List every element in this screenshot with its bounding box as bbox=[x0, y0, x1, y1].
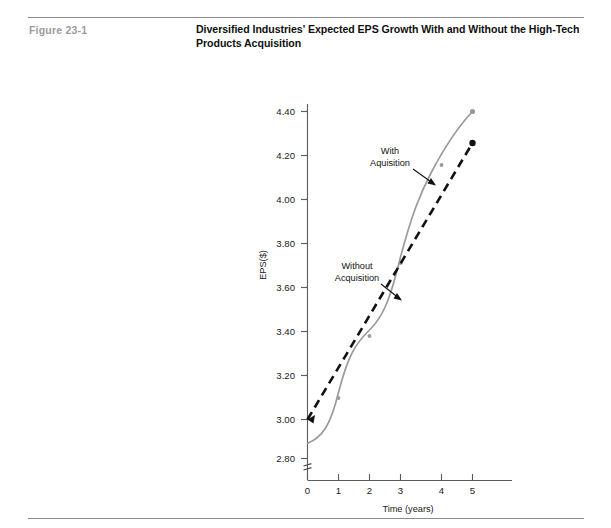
annotation-without-acquisition: Without Acquisition bbox=[335, 261, 402, 301]
bottom-divider bbox=[28, 518, 584, 519]
x-tick-marks bbox=[308, 474, 473, 480]
x-tick-label: 3 bbox=[398, 485, 403, 496]
y-tick-label: 2.80 bbox=[276, 453, 295, 464]
y-tick-label: 4.40 bbox=[276, 106, 295, 117]
y-axis-title: EPS($) bbox=[258, 250, 268, 280]
y-tick-labels: 4.40 4.20 4.00 3.80 3.60 3.40 3.20 3.00 … bbox=[276, 106, 295, 464]
x-tick-label: 5 bbox=[470, 485, 475, 496]
y-tick-label: 3.80 bbox=[276, 238, 295, 249]
figure-page: Figure 23-1 Diversified Industries' Expe… bbox=[0, 0, 611, 528]
y-tick-label: 3.00 bbox=[276, 414, 295, 425]
y-tick-label: 4.00 bbox=[276, 194, 295, 205]
annotation-without-line1: Without bbox=[341, 261, 373, 271]
x-tick-label: 0 bbox=[305, 485, 310, 496]
y-tick-label: 3.40 bbox=[276, 326, 295, 337]
y-tick-label: 3.20 bbox=[276, 370, 295, 381]
annotation-with-line1: With bbox=[381, 146, 399, 156]
annotation-with-acquisition: With Aquisition bbox=[370, 146, 436, 186]
x-axis-title: Time (years) bbox=[382, 504, 433, 514]
x-tick-label: 1 bbox=[336, 485, 341, 496]
y-tick-marks bbox=[301, 112, 308, 459]
eps-growth-line-chart: 4.40 4.20 4.00 3.80 3.60 3.40 3.20 3.00 … bbox=[0, 0, 611, 528]
x-tick-label: 2 bbox=[367, 485, 372, 496]
y-tick-label: 3.60 bbox=[276, 282, 295, 293]
x-tick-labels: 0 1 2 3 4 5 bbox=[305, 485, 475, 496]
annotation-with-line2: Aquisition bbox=[370, 158, 410, 168]
series-without-acquisition bbox=[308, 140, 476, 424]
y-tick-label: 4.20 bbox=[276, 150, 295, 161]
annotation-without-line2: Acquisition bbox=[335, 273, 379, 283]
x-tick-label: 4 bbox=[439, 485, 445, 496]
